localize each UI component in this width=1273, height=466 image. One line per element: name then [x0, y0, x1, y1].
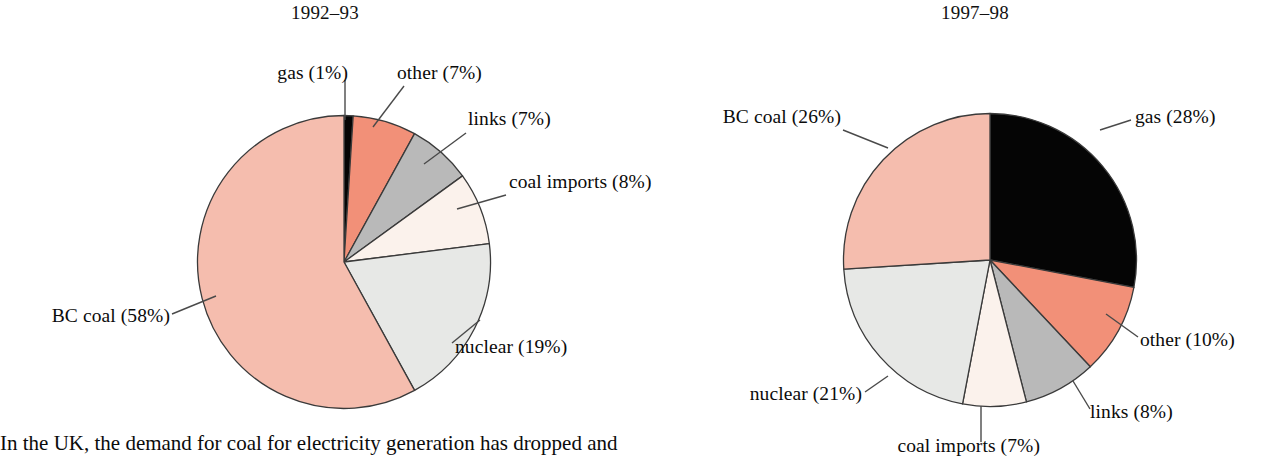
right-label-links: links (8%): [1090, 401, 1173, 423]
left-label-gas: gas (1%): [277, 62, 348, 84]
left-label-bc-coal: BC coal (58%): [52, 305, 170, 327]
left-label-other: other (7%): [397, 62, 482, 84]
figure-caption: In the UK, the demand for coal for elect…: [0, 431, 618, 456]
pie-slice-gas: [990, 114, 1137, 288]
right-pie-chart: [842, 112, 1138, 408]
right-label-nuclear: nuclear (21%): [750, 383, 862, 405]
right-label-coal-imports: coal imports (7%): [898, 435, 1041, 457]
right-label-bc-coal: BC coal (26%): [723, 106, 841, 128]
right-pie-slices: [844, 114, 1137, 407]
right-label-gas: gas (28%): [1135, 106, 1216, 128]
left-pie-chart: [196, 114, 492, 410]
left-chart-title: 1992–93: [291, 2, 359, 24]
left-label-nuclear: nuclear (19%): [455, 336, 567, 358]
left-pie-slices: [198, 116, 491, 409]
right-chart-title: 1997–98: [941, 2, 1009, 24]
left-label-coal-imports: coal imports (8%): [509, 171, 652, 193]
right-label-other: other (10%): [1140, 329, 1235, 351]
pie-chart-figure: 1992–93 1997–98 gas (1%) other (7%) link…: [0, 0, 1273, 466]
left-label-links: links (7%): [468, 108, 551, 130]
pie-slice-bc-coal: [844, 114, 990, 270]
